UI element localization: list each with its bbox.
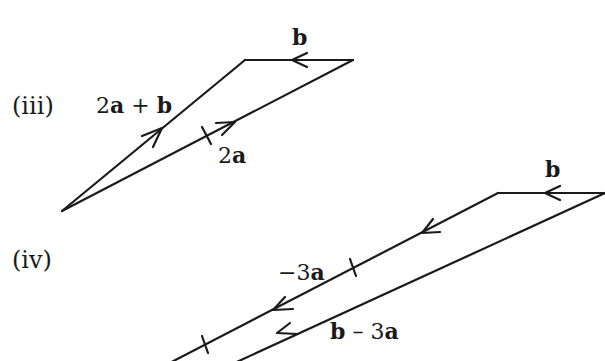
label-b: b — [157, 92, 172, 118]
label-coef: 2 — [96, 93, 110, 118]
label-b: b — [330, 318, 345, 344]
label-b-iv: b — [545, 158, 560, 180]
vector-2a-plus-b — [62, 60, 245, 211]
label-b-minus-3a: b – 3a — [330, 320, 399, 343]
arrow-icon — [422, 219, 440, 233]
vector-diagram: (iii) 2a + b b 2a (iv) b −3a b – 3a — [0, 0, 605, 361]
label-2a-plus-b: 2a + b — [96, 94, 172, 117]
label-op: + — [124, 93, 156, 118]
label-b-iii: b — [292, 26, 307, 48]
label-coef: 2 — [218, 143, 232, 168]
label-a: a — [384, 318, 398, 344]
label-a: a — [310, 259, 324, 285]
label-a: a — [232, 142, 246, 168]
vector-diagram-lines — [0, 0, 605, 361]
label-coef: 3 — [370, 319, 384, 344]
vector-neg-3a — [160, 193, 498, 361]
figure-iii-triangle — [62, 53, 353, 211]
label-op: – — [345, 319, 370, 344]
arrow-icon — [277, 323, 297, 334]
part-label-iv: (iv) — [12, 248, 52, 272]
part-label-iii: (iii) — [12, 94, 54, 118]
label-a: a — [110, 92, 124, 118]
label-2a: 2a — [218, 144, 246, 167]
label-neg-3a: −3a — [278, 261, 325, 284]
label-coef: −3 — [278, 260, 310, 285]
